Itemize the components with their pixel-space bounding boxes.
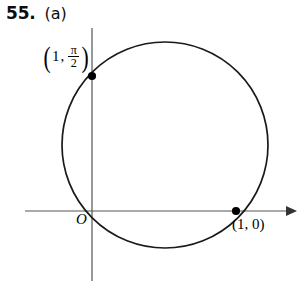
point-label-1-0: (1, 0) — [232, 217, 265, 232]
point-label-1-pi-over-2: ( 1 , π 2 ) — [42, 44, 90, 69]
label-comma: , — [61, 49, 65, 64]
fraction-denominator: 2 — [69, 57, 79, 69]
polar-radius-value: 1 — [52, 49, 60, 64]
point-marker-1-0 — [232, 207, 240, 215]
x-axis-arrowhead — [286, 206, 297, 216]
polar-circle-figure: 55. (a) ( 1 , π 2 ) (1, 0) O — [0, 0, 303, 283]
open-paren-glyph: ( — [43, 45, 50, 68]
fraction-numerator: π — [69, 44, 79, 56]
origin-label: O — [76, 212, 87, 227]
theta-fraction: π 2 — [68, 44, 79, 69]
point-marker-1-pi-over-2 — [88, 72, 96, 80]
close-paren-glyph: ) — [82, 45, 89, 68]
